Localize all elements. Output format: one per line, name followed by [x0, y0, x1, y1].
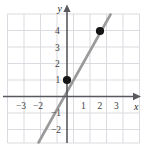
x-axis-label: x: [134, 102, 138, 112]
y-tick-label-2: 2: [55, 60, 60, 70]
data-point-y-intercept: [63, 76, 71, 84]
y-tick-label-1: 1: [56, 76, 61, 86]
x-tick-label-2: 2: [98, 102, 103, 112]
x-tick-label-3: 3: [114, 102, 119, 112]
x-tick-label-neg3: −3: [16, 102, 26, 112]
coordinate-plane-figure: 4 3 2 1 −1 −2 −3 −2 1 2 3 y x: [0, 0, 148, 149]
x-tick-label-neg2: −2: [33, 102, 43, 112]
data-point-second: [96, 27, 104, 35]
y-tick-label-4: 4: [55, 27, 60, 37]
y-axis-label: y: [58, 4, 62, 14]
y-tick-label-neg2: −2: [51, 126, 61, 136]
y-tick-label-neg1: −1: [51, 109, 61, 119]
graph-canvas: [0, 0, 148, 149]
y-axis-arrow: [63, 5, 70, 13]
y-tick-label-3: 3: [55, 44, 60, 54]
x-tick-label-1: 1: [81, 102, 86, 112]
